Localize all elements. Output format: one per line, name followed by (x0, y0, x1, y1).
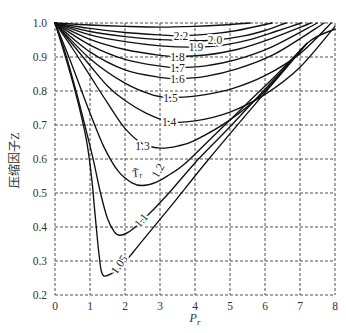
x-axis-label-subscript: r (197, 317, 201, 327)
compressibility-chart: 2.22.01.91.81.71.61.51.41.31.21.11.05T̄r… (0, 0, 346, 333)
reduced-temperature-annotation: T̄r (131, 165, 145, 181)
curve-label-tr-1-2: 1.2 (149, 161, 167, 180)
curve-label-tr-1-4: 1.4 (162, 116, 177, 128)
y-tick-label: 1.0 (33, 17, 48, 29)
curve-tr-top (55, 23, 250, 27)
curve-label-tr-2-2: 2.2 (174, 30, 189, 42)
curve-label-tr-1-8: 1.8 (170, 51, 185, 63)
curve-label-tr-1-3: 1.3 (135, 140, 150, 152)
annotation-subscript: r (138, 170, 144, 180)
curve-label-tr-2-0: 2.0 (208, 34, 223, 46)
y-tick-label: 0.6 (33, 153, 48, 165)
y-tick-label: 0.4 (33, 221, 48, 233)
curve-tr-1-4 (55, 23, 335, 122)
x-axis-label: Pr (189, 311, 201, 327)
curve-label-tr-1-5: 1.5 (163, 92, 178, 104)
x-tick-label: 8 (332, 300, 338, 312)
x-tick-label: 6 (262, 300, 268, 312)
y-tick-label: 0.5 (33, 187, 48, 199)
y-tick-label: 0.2 (33, 289, 48, 301)
y-axis-label: 压缩因子Z (7, 132, 22, 187)
curve-label-tr-1-05: 1.05 (108, 253, 130, 277)
chart-canvas: 2.22.01.91.81.71.61.51.41.31.21.11.05T̄r… (0, 0, 346, 333)
y-tick-label: 0.9 (33, 51, 48, 63)
x-tick-label: 1 (87, 300, 93, 312)
x-tick-label: 5 (227, 300, 233, 312)
x-tick-label: 0 (52, 300, 58, 312)
y-tick-label: 0.7 (33, 119, 48, 131)
curve-label-tr-1-6: 1.6 (170, 73, 185, 85)
y-tick-label: 0.3 (33, 255, 48, 267)
x-tick-label: 7 (297, 300, 303, 312)
curve-label-tr-1-9: 1.9 (189, 41, 204, 53)
x-tick-label: 3 (157, 300, 163, 312)
x-tick-label: 2 (122, 300, 128, 312)
curve-label-tr-1-7: 1.7 (170, 62, 185, 74)
y-axis-ticks: 0.20.30.40.50.60.70.80.91.0 (33, 17, 48, 301)
y-tick-label: 0.8 (33, 85, 48, 97)
